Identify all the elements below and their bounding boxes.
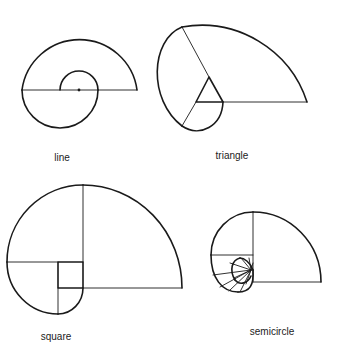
figure-semicircle <box>211 212 321 292</box>
spiral-arc <box>58 262 83 288</box>
spiral-arc <box>196 77 223 102</box>
spiral-arc <box>7 185 83 262</box>
spiral-arc <box>182 25 307 102</box>
label-square: square <box>41 331 72 342</box>
spiral-arc <box>211 212 253 255</box>
figure-square <box>7 185 182 314</box>
spiral-arc <box>60 71 98 90</box>
figure-triangle <box>157 25 307 130</box>
label-line: line <box>54 152 70 163</box>
construction-line <box>182 102 196 126</box>
spiral-arc <box>83 185 182 288</box>
center-dot <box>78 89 81 92</box>
spiral-arc <box>58 288 83 314</box>
spiral-arc <box>182 102 223 131</box>
spiral-arc <box>22 40 137 90</box>
label-triangle: triangle <box>216 150 249 161</box>
spiral-arc <box>7 262 58 314</box>
spiral-arc <box>253 212 321 282</box>
spiral-diagram-canvas <box>0 0 337 353</box>
figure-line <box>22 40 137 128</box>
spiral-arc <box>157 27 182 126</box>
label-semicircle: semicircle <box>250 326 294 337</box>
construction-line <box>182 27 209 77</box>
spiral-arc <box>22 90 98 128</box>
